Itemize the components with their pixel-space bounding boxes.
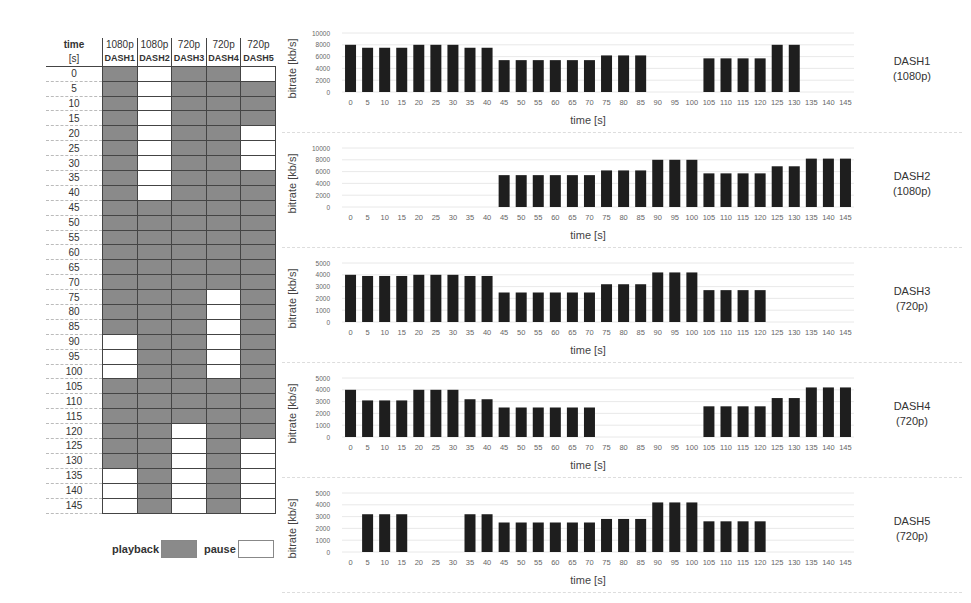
col-name-4: DASH4	[206, 52, 241, 66]
time-cell: 60	[46, 245, 103, 260]
dash1-state-cell	[103, 349, 138, 364]
dash4-state-cell	[206, 66, 241, 81]
bar	[703, 173, 714, 207]
col-res-2: 1080p	[137, 38, 172, 52]
bar	[533, 408, 544, 438]
table-row: 80	[46, 305, 276, 320]
svg-text:1000: 1000	[316, 422, 331, 429]
bar	[550, 60, 561, 92]
dash4-state-cell	[206, 498, 241, 513]
svg-text:105: 105	[703, 558, 716, 567]
svg-text:30: 30	[449, 213, 457, 222]
table-row: 75	[46, 290, 276, 305]
svg-text:35: 35	[466, 558, 474, 567]
table-row: 10	[46, 96, 276, 111]
svg-text:125: 125	[771, 213, 784, 222]
dash2-state-cell	[137, 185, 172, 200]
dash3-state-cell	[172, 349, 207, 364]
bar	[652, 160, 663, 207]
dash3-state-cell	[172, 200, 207, 215]
bar	[618, 170, 629, 207]
svg-text:145: 145	[839, 328, 852, 337]
dash5-state-cell	[241, 334, 276, 349]
svg-text:20: 20	[415, 558, 423, 567]
bar	[516, 293, 527, 323]
dash5-state-cell	[241, 230, 276, 245]
dash1-state-cell	[103, 483, 138, 498]
svg-text:65: 65	[568, 558, 576, 567]
svg-text:120: 120	[754, 328, 767, 337]
bitrate-chart-1: 0200040006000800010000051015202530354045…	[282, 20, 962, 133]
svg-text:120: 120	[754, 443, 767, 452]
bar	[703, 58, 714, 92]
dash3-state-cell	[172, 185, 207, 200]
bitrate-chart-4: 0100020003000400050000510152025303540455…	[282, 365, 962, 478]
svg-text:35: 35	[466, 98, 474, 107]
dash4-state-cell	[206, 483, 241, 498]
dash4-state-cell	[206, 394, 241, 409]
svg-text:2000: 2000	[316, 410, 331, 417]
dash2-state-cell	[137, 319, 172, 334]
dash4-state-cell	[206, 334, 241, 349]
svg-text:25: 25	[432, 328, 440, 337]
dash1-state-cell	[103, 230, 138, 245]
svg-text:115: 115	[737, 213, 749, 222]
bar	[738, 521, 749, 552]
svg-text:60: 60	[551, 98, 559, 107]
svg-text:80: 80	[619, 328, 627, 337]
dash1-state-cell	[103, 364, 138, 379]
svg-text:bitrate [kb/s]: bitrate [kb/s]	[286, 154, 298, 214]
dash5-state-cell	[241, 275, 276, 290]
svg-text:time [s]: time [s]	[570, 114, 605, 126]
col-res-5: 720p	[241, 38, 276, 52]
svg-text:0: 0	[326, 319, 330, 326]
dash2-state-cell	[137, 126, 172, 141]
dash2-state-cell	[137, 81, 172, 96]
bar	[755, 290, 766, 322]
dash5-state-cell	[241, 364, 276, 379]
svg-text:105: 105	[703, 328, 716, 337]
dash1-state-cell	[103, 126, 138, 141]
svg-text:130: 130	[788, 558, 801, 567]
table-row: 135	[46, 468, 276, 483]
bar	[465, 48, 476, 92]
svg-text:125: 125	[771, 443, 784, 452]
dash5-state-cell	[241, 171, 276, 186]
table-legend: playback pause	[46, 538, 276, 558]
svg-text:140: 140	[822, 213, 835, 222]
dash4-state-cell	[206, 185, 241, 200]
svg-text:20: 20	[415, 443, 423, 452]
svg-text:55: 55	[534, 558, 542, 567]
legend-playback: playback	[112, 540, 197, 558]
time-cell: 105	[46, 379, 103, 394]
bar	[430, 390, 441, 437]
svg-text:time [s]: time [s]	[570, 459, 605, 471]
bar	[652, 502, 663, 552]
svg-text:50: 50	[517, 558, 525, 567]
dash5-state-cell	[241, 453, 276, 468]
svg-text:20: 20	[415, 98, 423, 107]
bar	[533, 523, 544, 553]
table-row: 25	[46, 141, 276, 156]
svg-text:130: 130	[788, 213, 801, 222]
bar	[533, 293, 544, 323]
playback-state-table-panel: time 1080p 1080p 720p 720p 720p [s] DASH…	[46, 38, 276, 514]
svg-text:110: 110	[720, 328, 732, 337]
svg-text:75: 75	[602, 98, 610, 107]
dash4-state-cell	[206, 111, 241, 126]
svg-text:70: 70	[585, 213, 593, 222]
table-row: 50	[46, 215, 276, 230]
dash4-state-cell	[206, 200, 241, 215]
dash3-state-cell	[172, 305, 207, 320]
dash2-state-cell	[137, 290, 172, 305]
dash5-state-cell	[241, 439, 276, 454]
dash3-state-cell	[172, 409, 207, 424]
legend-pause: pause	[204, 540, 274, 558]
bar	[499, 523, 510, 553]
bar	[482, 514, 493, 552]
dash5-state-cell	[241, 349, 276, 364]
dash5-state-cell	[241, 498, 276, 513]
svg-text:40: 40	[483, 443, 491, 452]
svg-text:100: 100	[686, 213, 699, 222]
svg-text:time [s]: time [s]	[570, 574, 605, 586]
